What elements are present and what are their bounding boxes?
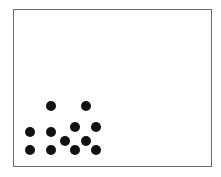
- dot: [46, 145, 56, 155]
- dot: [25, 127, 35, 137]
- dot: [70, 122, 80, 132]
- dot: [70, 145, 80, 155]
- dot-diagram-canvas: [0, 0, 221, 177]
- dot: [91, 122, 101, 132]
- dot: [91, 145, 101, 155]
- dot: [60, 136, 70, 146]
- dot: [25, 145, 35, 155]
- dot: [81, 136, 91, 146]
- dot: [46, 101, 56, 111]
- dot: [46, 127, 56, 137]
- dot: [81, 101, 91, 111]
- diagram-frame: [13, 9, 212, 167]
